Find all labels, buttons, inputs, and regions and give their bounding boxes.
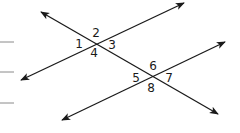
parallel-lines-transversal-diagram: 1 2 3 4 5 6 7 8 [0, 0, 240, 133]
transversal-line [41, 12, 218, 114]
lower-parallel-line [62, 42, 225, 120]
angle-label-7: 7 [165, 71, 173, 85]
angle-label-3: 3 [108, 38, 116, 52]
angle-label-4: 4 [90, 46, 98, 60]
angle-label-5: 5 [132, 71, 140, 85]
angle-label-8: 8 [147, 81, 155, 95]
angle-label-1: 1 [75, 37, 83, 51]
angle-label-6: 6 [149, 59, 157, 73]
angle-label-2: 2 [92, 26, 100, 40]
margin-dashes [0, 42, 14, 103]
